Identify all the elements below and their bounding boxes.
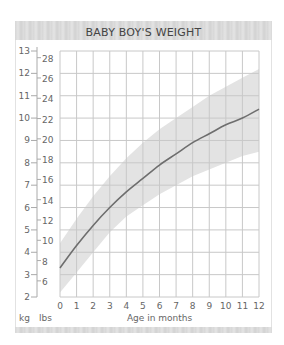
kg-tick-label: 4 [24,247,30,257]
x-tick-label: 11 [237,301,248,311]
kg-tick-label: 13 [19,46,30,56]
kg-tick-label: 3 [24,270,30,280]
lbs-tick-label: 16 [42,175,54,185]
x-tick-label: 7 [173,301,179,311]
kg-tick-label: 11 [19,91,30,101]
x-axis-label: Age in months [127,313,193,323]
x-tick-label: 6 [157,301,163,311]
kg-tick-label: 8 [24,158,30,168]
lbs-tick-label: 6 [42,277,48,287]
x-tick-label: 1 [74,301,80,311]
kg-tick-label: 9 [24,135,30,145]
x-tick-label: 9 [206,301,212,311]
lbs-tick-label: 22 [42,115,53,125]
lbs-unit-label: lbs [39,313,52,323]
kg-unit-label: kg [19,313,30,323]
kg-tick-label: 10 [19,113,31,123]
x-tick-label: 4 [123,301,129,311]
x-tick-label: 10 [220,301,232,311]
kg-tick-label: 12 [19,68,30,78]
weight-chart: 1312111098765432282624222018161412108601… [0,0,284,345]
lbs-tick-label: 24 [42,94,54,104]
kg-tick-label: 6 [24,203,30,213]
lbs-tick-label: 12 [42,216,53,226]
kg-tick-label: 2 [24,292,30,302]
lbs-tick-label: 20 [42,135,54,145]
lbs-tick-label: 14 [42,196,54,206]
x-tick-label: 5 [140,301,146,311]
x-tick-label: 0 [57,301,63,311]
x-tick-label: 8 [190,301,196,311]
kg-tick-label: 7 [24,180,30,190]
x-tick-label: 3 [107,301,113,311]
lbs-tick-label: 18 [42,155,54,165]
lbs-tick-label: 26 [42,74,54,84]
lbs-tick-label: 28 [42,54,54,64]
x-tick-label: 12 [253,301,264,311]
lbs-tick-label: 8 [42,257,48,267]
kg-tick-label: 5 [24,225,30,235]
lbs-tick-label: 10 [42,236,54,246]
x-tick-label: 2 [90,301,96,311]
